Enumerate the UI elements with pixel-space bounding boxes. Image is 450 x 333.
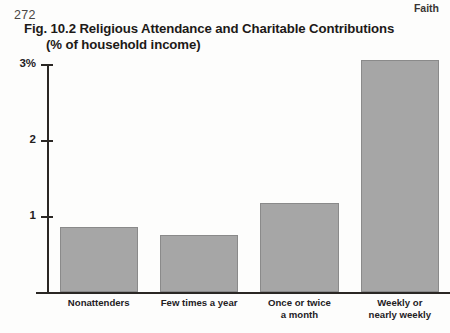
y-tick-label-3: 3% xyxy=(2,57,36,69)
category-label-3: Weekly ornearly weekly xyxy=(344,297,450,320)
bar-2 xyxy=(260,203,338,292)
category-label-1: Few times a year xyxy=(143,297,255,309)
y-axis-line xyxy=(47,64,49,294)
category-label-line: Few times a year xyxy=(143,297,255,309)
category-label-line: Nonattenders xyxy=(43,297,155,309)
y-tick-label-2: 2 xyxy=(2,133,36,145)
bar-1 xyxy=(160,235,238,292)
y-tick-2 xyxy=(41,140,53,142)
bar-3 xyxy=(361,60,439,292)
category-label-line: Once or twice xyxy=(243,297,355,309)
category-label-0: Nonattenders xyxy=(43,297,155,309)
y-tick-1 xyxy=(41,216,53,218)
bar-chart: 123% NonattendersFew times a yearOnce or… xyxy=(0,0,450,333)
category-label-line: Weekly or xyxy=(344,297,450,309)
category-label-line: nearly weekly xyxy=(344,309,450,321)
y-tick-label-1: 1 xyxy=(2,209,36,221)
category-label-line: a month xyxy=(243,309,355,321)
category-label-2: Once or twicea month xyxy=(243,297,355,320)
bar-0 xyxy=(60,227,138,292)
y-tick-3 xyxy=(41,64,53,66)
x-axis-line xyxy=(36,292,450,294)
book-page: 272 Faith Fig. 10.2 Religious Attendance… xyxy=(0,0,450,333)
